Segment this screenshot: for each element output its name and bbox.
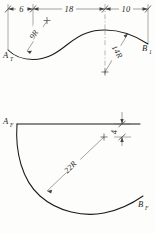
top-view-group: 6 18 10 9R 14R A T [2, 4, 152, 76]
dim-4-label: 4 [110, 130, 119, 134]
point-b-front-subscript: F [144, 205, 149, 211]
arrowhead-14r [124, 34, 128, 39]
point-b-front-letter: B [138, 199, 144, 209]
point-a-front-letter: A [2, 116, 9, 126]
arrowhead-9r [27, 51, 32, 54]
point-a-front-subscript: F [9, 122, 14, 128]
point-label-b-front: B F [138, 199, 149, 211]
point-a-top-subscript: T [10, 56, 14, 62]
drawing-sheet: 6 18 10 9R 14R A T [0, 0, 155, 234]
profile-arc-front [17, 124, 143, 214]
point-b-top-subscript: 1 [149, 49, 152, 55]
point-label-a-top: A T [2, 50, 14, 62]
dim-10-label: 10 [122, 5, 131, 14]
point-label-a-front: A F [2, 116, 14, 128]
front-view-group: 22R 4 A F B F [2, 112, 149, 214]
dim-6-label: 6 [19, 5, 24, 14]
dim-18-label: 18 [65, 5, 74, 14]
point-b-top-letter: B [142, 43, 148, 53]
point-label-b-top: B 1 [142, 43, 152, 55]
point-a-top-letter: A [2, 50, 9, 60]
drawing-canvas: 6 18 10 9R 14R A T [0, 0, 155, 234]
